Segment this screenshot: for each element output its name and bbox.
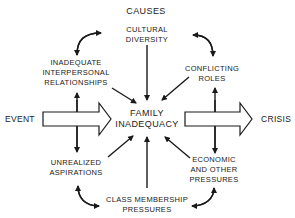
arrow-economic-to-center <box>165 137 190 158</box>
cause-unrealized-aspirations: UNREALIZED ASPIRATIONS <box>49 158 102 178</box>
crisis-block-arrow <box>185 103 252 135</box>
curve-bottom-right-b <box>192 188 214 206</box>
crisis-label: CRISIS <box>261 114 291 124</box>
family-crisis-diagram: CAUSES CULTURAL DIVERSITY CONFLICTING RO… <box>0 0 295 218</box>
cause-class-membership: CLASS MEMBERSHIP PRESSURES <box>106 195 188 215</box>
center-family-inadequacy: FAMILY INADEQUACY <box>115 108 179 130</box>
curve-top-right <box>193 35 213 56</box>
curve-bottom-left <box>78 186 99 206</box>
curve-bottom-left-b <box>78 186 99 206</box>
cause-cultural-diversity: CULTURAL DIVERSITY <box>126 25 168 45</box>
cause-interpersonal-relationships: INADEQUATE INTERPERSONAL RELATIONSHIPS <box>42 58 109 88</box>
cause-conflicting-roles: CONFLICTING ROLES <box>185 64 239 84</box>
cause-economic-pressures: ECONOMIC AND OTHER PRESSURES <box>190 155 239 185</box>
curve-top-left <box>77 33 101 55</box>
curve-top-right-b <box>193 35 213 56</box>
curve-top-left-b <box>77 33 101 55</box>
causes-heading: CAUSES <box>126 6 165 16</box>
arrow-aspirations-to-center <box>108 136 133 157</box>
arrow-relationships-to-center <box>112 88 136 103</box>
event-label: EVENT <box>5 114 35 124</box>
